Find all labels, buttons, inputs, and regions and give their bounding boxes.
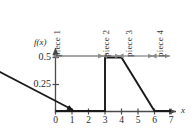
y-axis bbox=[53, 48, 60, 113]
x-tick-label-2: 2 bbox=[82, 115, 95, 125]
piecewise-function-figure: piece 1 piece 2 piece 3 piece 4 f(x) 0.5… bbox=[0, 0, 192, 130]
piece-2-label: piece 2 bbox=[101, 30, 111, 57]
x-tick-label-0: 0 bbox=[49, 115, 62, 125]
x-tick-label-6: 6 bbox=[148, 115, 161, 125]
x-tick-label-5: 5 bbox=[132, 115, 145, 125]
pointer-arrow bbox=[0, 71, 73, 110]
x-tick-label-4: 4 bbox=[115, 115, 128, 125]
piece-4-label: piece 4 bbox=[155, 30, 165, 57]
x-axis-label: x bbox=[181, 105, 185, 115]
x-tick-label-3: 3 bbox=[99, 115, 112, 125]
x-tick-label-1: 1 bbox=[66, 115, 79, 125]
piece-1-label: piece 1 bbox=[52, 30, 62, 57]
y-tick-label-0_25: 0.25 bbox=[20, 78, 51, 89]
function-curve bbox=[56, 58, 172, 112]
x-tick-label-7: 7 bbox=[165, 115, 178, 125]
y-tick-label-0_5: 0.5 bbox=[26, 51, 51, 62]
plot-canvas bbox=[0, 0, 192, 130]
y-axis-label: f(x) bbox=[34, 37, 47, 47]
piece-3-label: piece 3 bbox=[124, 30, 134, 57]
